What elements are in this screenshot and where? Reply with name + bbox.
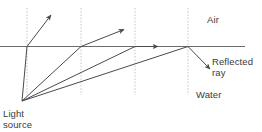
refracted-rays-group <box>27 15 158 47</box>
diagram-canvas: Air Water Reflected ray Light source <box>0 0 262 132</box>
normal-lines-group <box>27 8 188 95</box>
incident-ray-1 <box>22 47 27 102</box>
incident-ray-3 <box>22 47 135 102</box>
label-air: Air <box>207 14 219 25</box>
label-water: Water <box>196 89 221 100</box>
label-light-source: Light source <box>3 108 32 130</box>
refracted-ray-1 <box>27 15 51 47</box>
incident-ray-2 <box>22 47 81 102</box>
incident-ray-4 <box>22 47 188 102</box>
refracted-ray-2 <box>81 30 124 47</box>
reflected-ray-line <box>188 47 210 70</box>
incident-rays-group <box>22 47 188 102</box>
label-reflected-ray: Reflected ray <box>212 56 253 78</box>
